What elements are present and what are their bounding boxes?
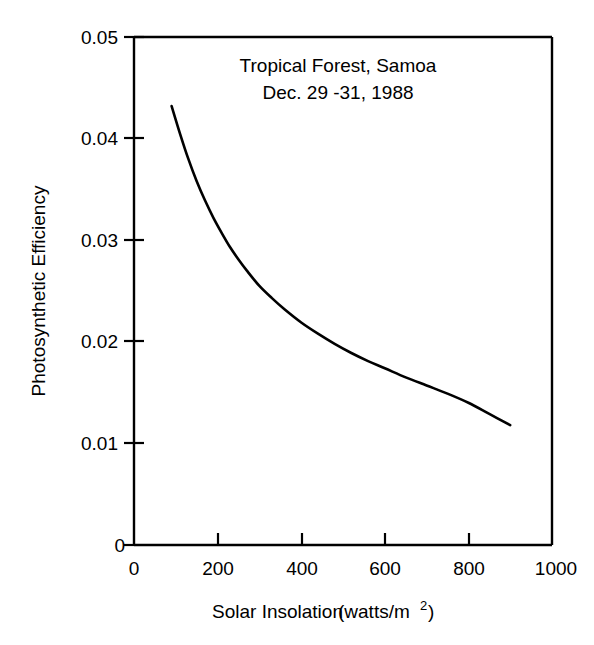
x-axis-title-units-open: (watts/m	[338, 601, 410, 622]
x-tick-label-800: 800	[453, 558, 485, 579]
x-tick-label-600: 600	[369, 558, 401, 579]
chart-figure: 0.05 0.04 0.03 0.02 0.01 0 0 200 400 600…	[0, 0, 594, 645]
x-tick-label-400: 400	[286, 558, 318, 579]
data-series-line	[172, 106, 511, 425]
y-tick-label-0.01: 0.01	[81, 433, 118, 454]
y-tick-label-0.05: 0.05	[81, 27, 118, 48]
plot-frame	[134, 37, 552, 545]
y-tick-label-0.02: 0.02	[81, 331, 118, 352]
x-axis-title-units-superscript: 2	[420, 598, 427, 613]
x-axis-title: Solar Insolation (watts/m 2 )	[212, 598, 434, 622]
x-tick-label-200: 200	[202, 558, 234, 579]
x-axis-title-units-close: )	[428, 601, 434, 622]
y-tick-label-0.04: 0.04	[81, 128, 118, 149]
y-tick-label-0.03: 0.03	[81, 230, 118, 251]
annotation-line-2: Dec. 29 -31, 1988	[262, 82, 413, 103]
x-tick-label-0: 0	[129, 558, 140, 579]
chart-canvas: 0.05 0.04 0.03 0.02 0.01 0 0 200 400 600…	[0, 0, 594, 645]
y-tick-label-0: 0	[114, 535, 125, 556]
y-axis-title: Photosynthetic Efficiency	[28, 185, 49, 396]
x-tick-marks	[218, 533, 469, 545]
x-tick-label-1000: 1000	[535, 558, 577, 579]
annotation-line-1: Tropical Forest, Samoa	[240, 55, 437, 76]
x-axis-title-main: Solar Insolation	[212, 601, 343, 622]
